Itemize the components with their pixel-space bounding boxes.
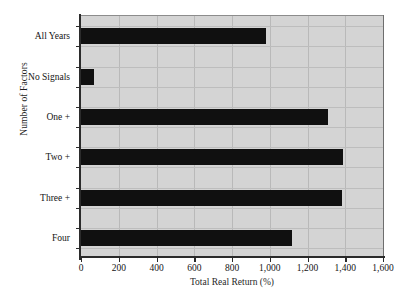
gridline-vertical	[194, 16, 195, 258]
y-axis-tick	[76, 147, 81, 148]
y-axis-tick-label: No Signals	[0, 72, 70, 82]
x-axis-tick	[345, 258, 346, 262]
x-axis-tick-label: 1,600	[353, 263, 413, 273]
gridline-horizontal	[81, 147, 383, 148]
bar	[81, 109, 328, 125]
y-axis-tick-label: All Years	[0, 31, 70, 41]
gridline-vertical	[119, 16, 120, 258]
gridline-vertical	[308, 16, 309, 258]
y-axis-tick	[76, 26, 81, 27]
gridline-vertical	[232, 16, 233, 258]
x-axis-tick	[157, 258, 158, 262]
plot-frame-top	[81, 15, 384, 16]
y-axis-tick-label: One +	[0, 112, 70, 122]
x-axis-tick	[194, 258, 195, 262]
y-axis-tick	[76, 127, 81, 128]
plot-frame-right	[383, 15, 384, 259]
y-axis-tick	[76, 167, 81, 168]
x-axis-tick	[270, 258, 271, 262]
x-axis-tick	[119, 258, 120, 262]
plot-area	[81, 16, 383, 258]
y-axis-tick	[76, 107, 81, 108]
x-axis-tick	[383, 258, 384, 262]
x-axis-title: Total Real Return (%)	[81, 277, 383, 287]
gridline-horizontal	[81, 248, 383, 249]
y-axis-tick-labels: All YearsNo SignalsOne +Two +Three +Four	[0, 16, 74, 258]
y-axis-tick	[76, 188, 81, 189]
x-axis-tick	[308, 258, 309, 262]
y-axis-tick	[76, 208, 81, 209]
y-axis-tick	[76, 87, 81, 88]
gridline-vertical	[270, 16, 271, 258]
gridline-horizontal	[81, 26, 383, 27]
gridline-vertical	[157, 16, 158, 258]
x-axis-tick	[232, 258, 233, 262]
y-axis-tick-label: Two +	[0, 152, 70, 162]
bar	[81, 190, 342, 206]
y-axis-tick-label: Three +	[0, 193, 70, 203]
gridline-horizontal	[81, 167, 383, 168]
chart-figure: Number of Factors All YearsNo SignalsOne…	[0, 0, 416, 302]
bar	[81, 69, 94, 85]
gridline-horizontal	[81, 87, 383, 88]
y-axis-tick	[76, 228, 81, 229]
gridline-horizontal	[81, 127, 383, 128]
gridline-horizontal	[81, 208, 383, 209]
y-axis-tick-label: Four	[0, 233, 70, 243]
bar	[81, 230, 292, 246]
gridline-horizontal	[81, 46, 383, 47]
y-axis-tick	[76, 67, 81, 68]
gridline-vertical	[345, 16, 346, 258]
y-axis-line	[79, 14, 81, 260]
bar	[81, 28, 266, 44]
y-axis-tick	[76, 46, 81, 47]
gridline-horizontal	[81, 67, 383, 68]
x-axis-tick	[81, 258, 82, 262]
y-axis-tick	[76, 248, 81, 249]
bar	[81, 149, 343, 165]
